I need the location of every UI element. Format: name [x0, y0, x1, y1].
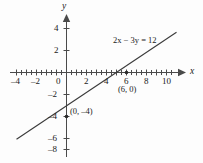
y-tick-label--4: –4	[48, 112, 57, 121]
x-axis-arrowhead	[178, 69, 186, 76]
x-tick-label-8: 8	[144, 77, 149, 86]
equation-label: 2x − 3y = 12	[113, 36, 157, 45]
equation-line	[17, 32, 177, 139]
y-axis-arrowhead	[63, 14, 70, 22]
point-label-y-intercept: (0, –4)	[70, 107, 93, 116]
y-axis-label: y	[62, 2, 66, 12]
x-tick-label-10: 10	[162, 77, 171, 86]
point-marker-y-intercept	[65, 115, 69, 119]
x-axis-label: x	[190, 67, 194, 77]
x-tick-label-4: 4	[104, 77, 109, 86]
y-tick-label--8: –8	[48, 145, 57, 154]
coordinate-plane-figure: x y –4 –2 0 2 4 6 8 10 4 2 –2 –4 –6 –8 (…	[0, 0, 203, 163]
y-tick-label-2: 2	[54, 46, 59, 55]
x-tick-label--2: –2	[31, 77, 40, 86]
point-marker-x-intercept	[125, 71, 129, 75]
point-label-x-intercept: (6, 0)	[118, 85, 136, 94]
x-tick-label--4: –4	[11, 77, 20, 86]
x-tick-label-2: 2	[84, 77, 89, 86]
y-tick-label--2: –2	[48, 90, 57, 99]
y-tick-label--6: –6	[48, 134, 57, 143]
equation-constant: 12	[148, 35, 157, 45]
x-tick-label-0: 0	[56, 77, 61, 86]
y-tick-label-4: 4	[54, 24, 59, 33]
